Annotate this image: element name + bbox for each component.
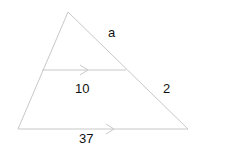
label-a: a <box>108 26 115 39</box>
label-middle-segment: 10 <box>75 82 89 95</box>
label-lower-side: 2 <box>163 82 170 95</box>
triangle-diagram <box>0 0 231 153</box>
label-base: 37 <box>79 132 93 145</box>
